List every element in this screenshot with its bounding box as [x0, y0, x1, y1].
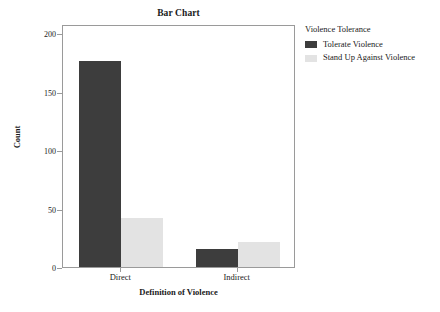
bar-indirect-series-1 — [238, 242, 280, 267]
legend-swatch-icon — [305, 41, 317, 48]
bar-indirect-series-0 — [196, 249, 238, 267]
x-axis-tick-label: Indirect — [224, 272, 250, 282]
y-axis-tick-label: 100 — [30, 147, 56, 156]
y-axis-title: Count — [12, 107, 22, 167]
legend: Violence Tolerance Tolerate ViolenceStan… — [305, 24, 440, 67]
x-axis-tick-labels: DirectIndirect — [62, 272, 295, 286]
legend-item-0[interactable]: Tolerate Violence — [305, 40, 440, 49]
x-axis-title: Definition of Violence — [62, 287, 295, 297]
legend-item-1[interactable]: Stand Up Against Violence — [305, 53, 440, 62]
y-axis-tick-labels: 050100150200 — [28, 25, 56, 268]
x-axis-tick-label: Direct — [110, 272, 131, 282]
y-axis-tick-label: 150 — [30, 88, 56, 97]
y-axis-tick-label: 0 — [30, 264, 56, 273]
bar-direct-series-1 — [121, 218, 163, 267]
legend-title: Violence Tolerance — [305, 24, 440, 34]
y-axis-tick-label: 200 — [30, 30, 56, 39]
legend-entries: Tolerate ViolenceStand Up Against Violen… — [305, 40, 440, 63]
legend-item-label: Stand Up Against Violence — [323, 53, 415, 62]
chart-title: Bar Chart — [62, 8, 295, 18]
legend-item-label: Tolerate Violence — [323, 40, 383, 49]
y-axis-tick-label: 50 — [30, 205, 56, 214]
plot-area — [62, 25, 295, 268]
bar-chart-figure: Bar Chart Count 050100150200 DirectIndir… — [0, 0, 440, 312]
plot-bars-container — [63, 26, 294, 267]
legend-swatch-icon — [305, 55, 317, 62]
bar-direct-series-0 — [79, 61, 121, 267]
